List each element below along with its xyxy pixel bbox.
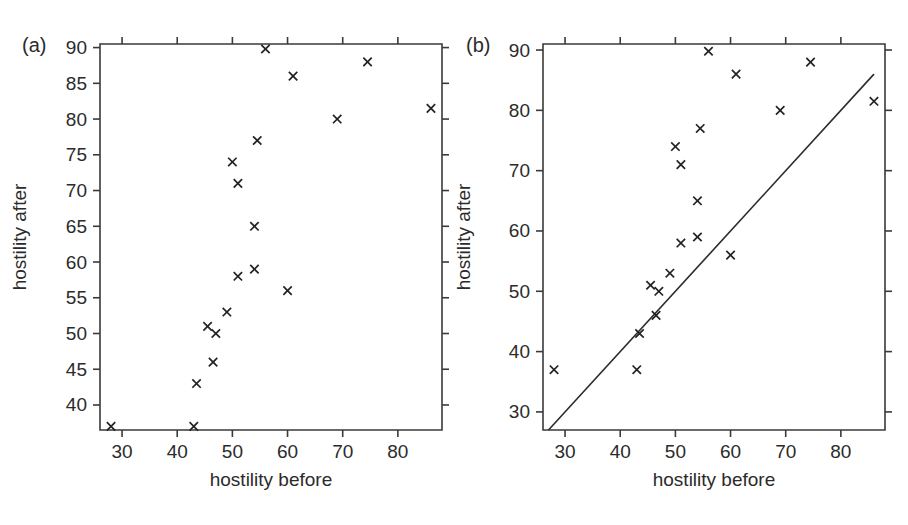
y-tick-label: 75 [66,144,87,165]
panel-a-x-axis-title: hostility before [210,469,333,490]
y-tick-label: 30 [509,401,530,422]
panel-a: (a) 4045505560657075808590 304050607080 … [9,34,449,490]
panel-a-letter: (a) [22,34,46,56]
panel-b-x-axis-title: hostility before [653,469,776,490]
data-point-marker [646,281,654,289]
data-point-marker [209,358,217,366]
data-point-marker [253,136,261,144]
panel-b-y-axis-title: hostility after [453,183,474,290]
panel-b-axis-box [543,44,885,430]
data-point-marker [677,239,685,247]
data-point-marker [696,124,704,132]
y-tick-label: 60 [66,252,87,273]
panel-b-plot-frame [543,44,885,430]
y-tick-label: 50 [66,323,87,344]
panel-b-y-axis: 30405060708090 [509,40,892,423]
data-point-marker [250,265,258,273]
x-tick-label: 50 [665,441,686,462]
y-tick-label: 70 [509,160,530,181]
panel-a-plot-frame [100,44,442,430]
y-tick-label: 40 [66,394,87,415]
y-tick-label: 90 [66,37,87,58]
y-tick-label: 80 [509,100,530,121]
y-tick-label: 55 [66,287,87,308]
data-point-marker [666,269,674,277]
y-tick-label: 80 [66,109,87,130]
data-point-marker [223,308,231,316]
data-point-marker [234,272,242,280]
x-tick-label: 70 [332,441,353,462]
data-point-marker [228,158,236,166]
panel-a-y-axis-title: hostility after [9,183,30,290]
panel-a-y-axis: 4045505560657075808590 [66,37,449,415]
y-tick-label: 50 [509,281,530,302]
x-tick-label: 30 [111,441,132,462]
panel-a-data-markers [107,45,435,431]
data-point-marker [550,365,558,373]
data-point-marker [261,45,269,53]
data-point-marker [671,142,679,150]
data-point-marker [192,379,200,387]
data-point-marker [427,104,435,112]
data-point-marker [677,160,685,168]
x-tick-label: 40 [610,441,631,462]
y-tick-label: 65 [66,216,87,237]
data-point-marker [776,106,784,114]
y-tick-label: 90 [509,40,530,61]
x-tick-label: 60 [277,441,298,462]
data-point-marker [726,251,734,259]
data-point-marker [704,47,712,55]
y-tick-label: 85 [66,73,87,94]
x-tick-label: 70 [775,441,796,462]
data-point-marker [693,233,701,241]
x-tick-label: 40 [167,441,188,462]
data-point-marker [363,58,371,66]
data-point-marker [870,97,878,105]
panel-a-x-axis: 304050607080 [111,37,408,462]
data-point-marker [655,287,663,295]
x-tick-label: 30 [554,441,575,462]
x-tick-label: 80 [830,441,851,462]
y-tick-label: 45 [66,359,87,380]
data-point-marker [633,365,641,373]
x-tick-label: 60 [720,441,741,462]
hostility-scatter-figure: (a) 4045505560657075808590 304050607080 … [0,0,908,525]
data-point-marker [212,329,220,337]
data-point-marker [250,222,258,230]
data-point-marker [806,58,814,66]
data-point-marker [333,115,341,123]
data-point-marker [289,72,297,80]
panel-b-x-axis: 304050607080 [554,37,851,462]
panel-b-data-markers [550,47,878,374]
panel-b: (b) 30405060708090 304050607080 hostilit… [453,34,892,490]
panel-b-identity-reference-line [549,74,874,430]
y-tick-label: 40 [509,341,530,362]
data-point-marker [693,197,701,205]
data-point-marker [283,286,291,294]
x-tick-label: 50 [222,441,243,462]
data-point-marker [732,70,740,78]
data-point-marker [234,179,242,187]
panel-a-axis-box [100,44,442,430]
data-point-marker [203,322,211,330]
y-tick-label: 70 [66,180,87,201]
y-tick-label: 60 [509,220,530,241]
panel-b-letter: (b) [466,34,490,56]
x-tick-label: 80 [387,441,408,462]
